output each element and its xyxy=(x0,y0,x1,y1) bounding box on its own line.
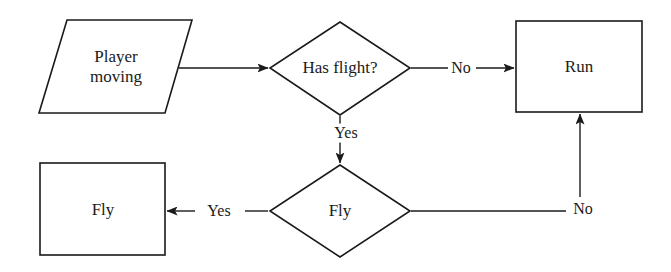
node-fly-decision-shape[interactable] xyxy=(270,165,410,257)
node-has-flight-shape[interactable] xyxy=(270,22,410,115)
node-player-moving-shape[interactable] xyxy=(39,20,192,113)
node-run-shape[interactable] xyxy=(516,21,642,112)
flowchart-canvas: Player moving Has flight? Run Fly Fly No… xyxy=(0,0,671,272)
node-fly-action-shape[interactable] xyxy=(40,163,165,255)
flowchart-graphics xyxy=(0,0,671,272)
